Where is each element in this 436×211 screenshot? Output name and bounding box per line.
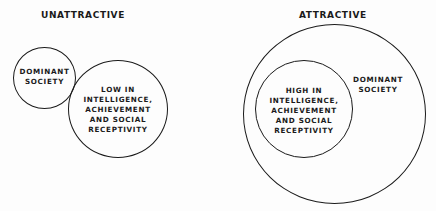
high-group-label: HIGH IN INTELLIGENCE, ACHIEVEMENT AND SO…: [256, 86, 352, 136]
label-line: ACHIEVEMENT: [256, 106, 352, 116]
low-group-label: LOW IN INTELLIGENCE, ACHIEVEMENT AND SOC…: [70, 85, 166, 135]
dominant-society-label: DOMINANT SOCIETY: [16, 67, 73, 87]
label-line: AND SOCIAL: [256, 116, 352, 126]
label-line: HIGH IN: [256, 86, 352, 96]
label-line: SOCIETY: [16, 77, 73, 87]
label-line: ACHIEVEMENT: [70, 105, 166, 115]
label-line: DOMINANT: [16, 67, 73, 77]
label-line: AND SOCIAL: [70, 115, 166, 125]
label-line: INTELLIGENCE,: [256, 96, 352, 106]
label-line: INTELLIGENCE,: [70, 95, 166, 105]
label-line: DOMINANT: [348, 75, 408, 85]
panel-title-attractive: ATTRACTIVE: [299, 10, 367, 20]
dominant-society-label: DOMINANT SOCIETY: [348, 75, 408, 95]
panel-title-unattractive: UNATTRACTIVE: [41, 10, 125, 20]
label-line: LOW IN: [70, 85, 166, 95]
label-line: SOCIETY: [348, 85, 408, 95]
label-line: RECEPTIVITY: [70, 125, 166, 135]
label-line: RECEPTIVITY: [256, 126, 352, 136]
